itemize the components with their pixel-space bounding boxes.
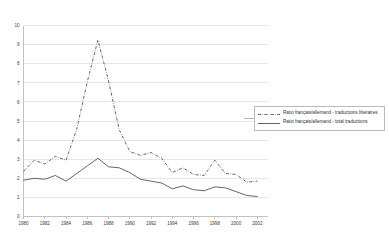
- ytick-label: 4: [17, 138, 20, 143]
- xtick-label: 1996: [188, 221, 199, 226]
- legend-label-traductions-litteraires: Ratio français/allemand - traductions li…: [283, 110, 377, 116]
- ytick-label: 1: [17, 195, 20, 200]
- series-group: [24, 40, 258, 197]
- legend-label-line1: Ratio français/allemand - traductions: [283, 110, 358, 115]
- ytick-label: 8: [17, 61, 20, 66]
- legend-item-traductions-litteraires: Ratio français/allemand - traductions li…: [258, 110, 381, 118]
- xtick-label: 2002: [252, 221, 263, 226]
- xtick-label: 1994: [167, 221, 178, 226]
- series-path-0: [24, 40, 258, 182]
- xtick-label: 1986: [82, 221, 93, 226]
- xtick-label: 1984: [61, 221, 72, 226]
- legend-swatch-dash-dot-icon: [258, 111, 280, 118]
- ytick-label: 3: [17, 157, 20, 162]
- ytick-label: 7: [17, 81, 20, 86]
- xtick-label: 2000: [231, 221, 242, 226]
- gridlines-group: [24, 26, 269, 198]
- xtick-label: 1990: [125, 221, 136, 226]
- legend-item-total-traductions: Ratio français/allemand - total traducti…: [258, 119, 381, 127]
- series-path-1: [24, 158, 258, 196]
- xtick-label: 1980: [18, 221, 29, 226]
- ytick-label: 0: [17, 214, 20, 219]
- ytick-label: 2: [17, 176, 20, 181]
- ytick-label: 10: [14, 23, 20, 28]
- ytick-label: 5: [17, 119, 20, 124]
- xtick-label: 1998: [210, 221, 221, 226]
- xtick-label: 1992: [146, 221, 157, 226]
- xtick-label: 1982: [40, 221, 51, 226]
- xtick-labels-group: 1980198219841986198819901992199419961998…: [18, 221, 263, 226]
- ytick-label: 6: [17, 100, 20, 105]
- legend-swatch-solid-icon: [258, 120, 280, 127]
- legend-label-line2: littéraires: [359, 110, 378, 115]
- xtick-label: 1988: [103, 221, 114, 226]
- ytick-labels-group: 012345678910: [14, 23, 20, 219]
- legend-label-total-traductions: Ratio français/allemand - total traducti…: [283, 119, 368, 125]
- chart-container: 012345678910 198019821984198619881990199…: [0, 0, 389, 245]
- ytick-label: 9: [17, 42, 20, 47]
- chart-legend: Ratio français/allemand - traductions li…: [254, 106, 385, 131]
